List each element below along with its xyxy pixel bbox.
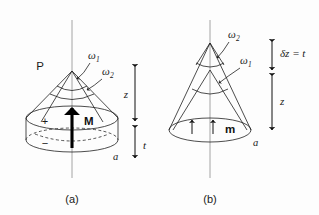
panel-b-moment-label: m <box>225 123 235 135</box>
panel-a-omega2-label: ω 2 <box>102 65 114 80</box>
svg-text:ω: ω <box>102 65 110 77</box>
panel-a-omega1-leader <box>77 63 90 79</box>
svg-text:2: 2 <box>110 71 114 80</box>
dimension-deltaz-label: δz = t <box>280 47 306 59</box>
panel-b-omega2-leader <box>217 42 229 58</box>
panel-a-minus-sign: − <box>42 137 48 149</box>
panel-a-plus-sign: + <box>42 115 48 127</box>
svg-text:1: 1 <box>248 60 252 69</box>
svg-text:ω: ω <box>240 54 248 66</box>
panel-b-radius-label: a <box>253 137 258 148</box>
dimension-z2-label: z <box>279 95 285 107</box>
panel-a-caption: (a) <box>65 193 78 205</box>
panel-b-group: ω 2 ω 1 m a (b) <box>169 20 258 205</box>
panel-a-radius-label: a <box>113 151 118 162</box>
panel-a-moment-label: M <box>84 115 94 127</box>
panel-a-group: P ω 1 ω 2 + − M a (a) <box>26 20 118 205</box>
svg-text:2: 2 <box>236 34 240 43</box>
figure-page: P ω 1 ω 2 + − M a (a) z t <box>0 0 319 215</box>
svg-text:1: 1 <box>96 55 100 64</box>
panel-b-omega2-label: ω 2 <box>228 28 240 43</box>
panel-a-omega1-label: ω 1 <box>88 49 100 64</box>
panel-b-omega1-leader <box>219 68 240 83</box>
svg-text:ω: ω <box>88 49 96 61</box>
dimension-t-label: t <box>143 139 147 151</box>
panel-a-apex-label: P <box>36 60 44 72</box>
panel-b-caption: (b) <box>203 193 216 205</box>
dimension-z-label: z <box>123 88 129 100</box>
center-dimension-bar: z t <box>123 67 147 158</box>
svg-text:ω: ω <box>228 28 236 40</box>
right-dimension-bar: δz = t z <box>272 42 306 130</box>
cone-solid-angle-figure: P ω 1 ω 2 + − M a (a) z t <box>0 0 319 215</box>
panel-a-omega2-leader <box>87 79 102 90</box>
panel-b-omega1-label: ω 1 <box>240 54 252 69</box>
